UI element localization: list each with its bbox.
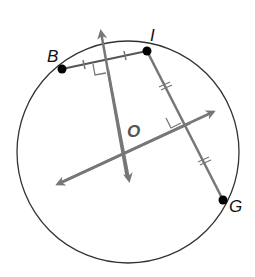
tick-mark — [83, 60, 85, 69]
bisector-bi-lower — [108, 70, 129, 180]
label-i: I — [150, 27, 155, 44]
bisector-ig-left — [58, 123, 190, 184]
point-g — [219, 196, 228, 205]
label-b: B — [47, 48, 58, 65]
point-i — [143, 47, 152, 56]
tick-mark — [124, 51, 126, 60]
right-angle-marker — [93, 64, 106, 75]
right-angle-marker — [166, 118, 181, 128]
point-b — [58, 65, 67, 74]
label-o: O — [127, 123, 140, 140]
geometry-diagram: B I O G — [0, 0, 255, 277]
label-g: G — [229, 198, 242, 215]
